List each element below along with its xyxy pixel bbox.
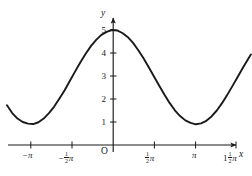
x-tick-label-three-half-pi: 112π [223, 151, 237, 164]
pi-symbol: π [192, 150, 197, 160]
pi-symbol: π [28, 150, 33, 160]
y-axis-label: y [101, 9, 105, 19]
y-tick-label-1: 1 [94, 118, 106, 127]
x-tick-label-neg-half-pi: −12π [58, 151, 73, 164]
cosine-curve [7, 30, 251, 124]
x-tick-label-neg-pi: −π [22, 151, 33, 160]
plot-canvas [0, 0, 252, 176]
origin-label: O [101, 147, 108, 157]
x-tick-label-pi: π [192, 151, 197, 160]
pi-symbol: π [150, 153, 155, 163]
x-tick-label-half-pi: 12π [145, 151, 154, 164]
y-tick-label-5: 5 [94, 26, 106, 35]
y-tick-label-4: 4 [94, 49, 106, 58]
pi-symbol: π [69, 153, 74, 163]
pi-symbol: π [232, 153, 237, 163]
y-tick-label-2: 2 [94, 95, 106, 104]
y-tick-label-3: 3 [94, 72, 106, 81]
x-axis-label: x [239, 150, 243, 160]
minus-sign: − [58, 153, 64, 163]
cosine-graph-figure: 5 4 3 2 1 O −π −12π 12π π 112π y x [0, 0, 252, 176]
